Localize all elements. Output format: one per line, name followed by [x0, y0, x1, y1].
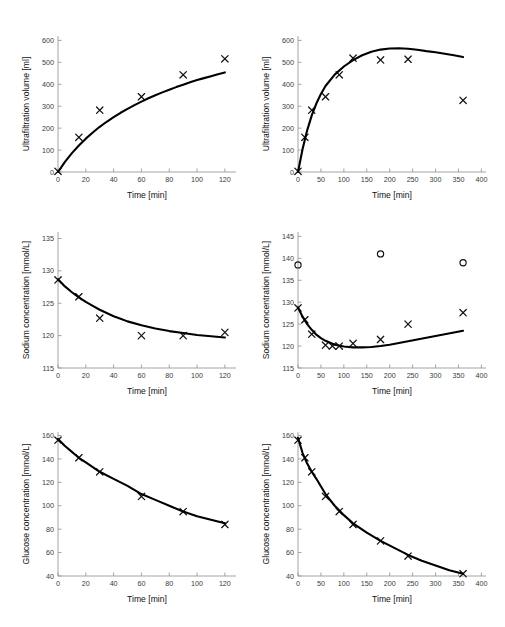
svg-text:150: 150: [361, 175, 373, 184]
svg-text:400: 400: [475, 371, 487, 380]
panel-glucose-long: 0501001502002503003504004060801001201401…: [258, 418, 496, 614]
figure-canvas: 0204060801001200100200300400500600Time […: [0, 0, 505, 627]
y-axis-ticks: 0100200300400500600: [282, 36, 302, 177]
svg-text:20: 20: [82, 371, 90, 380]
svg-text:40: 40: [46, 572, 54, 581]
svg-text:350: 350: [452, 371, 464, 380]
axis-lines: [58, 432, 236, 576]
svg-text:100: 100: [282, 501, 294, 510]
panel-sodium-long: 0501001502002503003504001151201251301351…: [258, 218, 496, 406]
svg-text:50: 50: [317, 371, 325, 380]
x-axis-ticks: 020406080100120: [56, 365, 231, 381]
axis-lines: [298, 232, 486, 368]
svg-text:250: 250: [407, 175, 419, 184]
svg-text:140: 140: [42, 455, 54, 464]
y-axis-title: Ultrafiltration volume [ml]: [21, 57, 31, 152]
svg-text:0: 0: [296, 371, 300, 380]
x-axis-ticks: 050100150200250300350400: [296, 573, 487, 589]
svg-text:150: 150: [361, 579, 373, 588]
svg-text:125: 125: [42, 299, 54, 308]
svg-text:0: 0: [290, 168, 294, 177]
svg-text:350: 350: [452, 579, 464, 588]
svg-text:160: 160: [282, 431, 294, 440]
svg-text:100: 100: [338, 579, 350, 588]
svg-text:200: 200: [384, 371, 396, 380]
svg-text:125: 125: [282, 320, 294, 329]
svg-text:100: 100: [191, 371, 203, 380]
data-points-o: [295, 251, 466, 268]
data-points-x: [55, 437, 228, 528]
svg-text:60: 60: [137, 579, 145, 588]
svg-text:300: 300: [430, 175, 442, 184]
svg-text:40: 40: [286, 572, 294, 581]
data-points-x: [295, 437, 466, 577]
svg-text:40: 40: [110, 579, 118, 588]
fit-curve: [298, 307, 463, 347]
x-axis-title: Time [min]: [372, 386, 412, 396]
svg-text:140: 140: [282, 455, 294, 464]
x-axis-ticks: 050100150200250300350400: [296, 169, 487, 185]
data-points-x: [295, 305, 466, 350]
svg-text:200: 200: [282, 124, 294, 133]
y-axis-ticks: 406080100120140160: [282, 431, 302, 580]
panel-uf-short: 0204060801001200100200300400500600Time […: [18, 22, 246, 210]
svg-text:300: 300: [430, 579, 442, 588]
axis-lines: [58, 36, 236, 172]
svg-text:600: 600: [282, 36, 294, 45]
y-axis-title: Sodium concentration [mmol/L]: [261, 241, 271, 359]
data-points-x: [55, 56, 228, 175]
svg-text:60: 60: [137, 371, 145, 380]
x-axis-title: Time [min]: [127, 190, 167, 200]
fit-curve: [298, 48, 463, 172]
svg-text:0: 0: [56, 579, 60, 588]
svg-text:400: 400: [475, 579, 487, 588]
svg-text:135: 135: [282, 276, 294, 285]
data-points-x: [295, 55, 466, 175]
svg-text:500: 500: [282, 58, 294, 67]
svg-text:200: 200: [384, 579, 396, 588]
svg-text:0: 0: [296, 579, 300, 588]
y-axis-title: Glucose concentration [mmol/L]: [21, 444, 31, 565]
svg-text:250: 250: [407, 371, 419, 380]
svg-text:150: 150: [361, 371, 373, 380]
svg-text:500: 500: [42, 58, 54, 67]
svg-text:100: 100: [191, 175, 203, 184]
svg-text:120: 120: [219, 579, 231, 588]
svg-text:40: 40: [110, 371, 118, 380]
svg-text:80: 80: [165, 579, 173, 588]
x-axis-ticks: 020406080100120: [56, 169, 231, 185]
svg-text:350: 350: [452, 175, 464, 184]
svg-text:250: 250: [407, 579, 419, 588]
svg-text:100: 100: [191, 579, 203, 588]
axis-lines: [298, 432, 486, 576]
y-axis-title: Glucose concentration [mmol/L]: [261, 444, 271, 565]
svg-text:100: 100: [282, 146, 294, 155]
svg-text:0: 0: [56, 371, 60, 380]
svg-text:400: 400: [282, 80, 294, 89]
x-axis-title: Time [min]: [127, 386, 167, 396]
svg-text:115: 115: [283, 364, 294, 373]
svg-text:40: 40: [110, 175, 118, 184]
svg-text:115: 115: [43, 364, 54, 373]
svg-text:300: 300: [42, 102, 54, 111]
fit-curve: [298, 438, 463, 574]
svg-text:80: 80: [286, 525, 294, 534]
x-axis-title: Time [min]: [372, 190, 412, 200]
svg-text:135: 135: [42, 234, 54, 243]
svg-text:100: 100: [338, 175, 350, 184]
svg-text:120: 120: [42, 478, 54, 487]
svg-text:140: 140: [282, 254, 294, 263]
svg-text:20: 20: [82, 579, 90, 588]
svg-text:600: 600: [42, 36, 54, 45]
svg-text:60: 60: [286, 548, 294, 557]
svg-text:100: 100: [42, 146, 54, 155]
fit-curve: [58, 439, 225, 523]
svg-text:0: 0: [56, 175, 60, 184]
y-axis-ticks: 0100200300400500600: [42, 36, 62, 177]
svg-text:100: 100: [42, 501, 54, 510]
y-axis-title: Sodium concentration [mmol/L]: [21, 241, 31, 359]
svg-text:300: 300: [282, 102, 294, 111]
svg-text:100: 100: [338, 371, 350, 380]
x-axis-title: Time [min]: [127, 594, 167, 604]
svg-text:120: 120: [42, 331, 54, 340]
